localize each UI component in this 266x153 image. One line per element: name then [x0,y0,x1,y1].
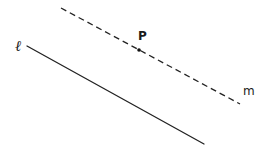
line-m-dashed [61,8,240,104]
point-p-label: P [138,29,147,43]
point-p [137,48,141,52]
line-m-label: m [243,84,255,98]
parallel-lines-diagram: ℓ m P [0,0,266,153]
line-l [27,46,204,144]
line-l-label: ℓ [15,37,21,55]
